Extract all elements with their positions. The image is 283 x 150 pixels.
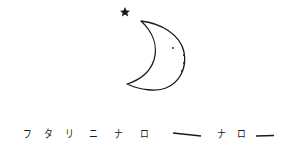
star-icon xyxy=(120,7,130,17)
caption-text: フ タ リ ニ ナ ロ ナ ロ xyxy=(0,128,283,144)
caption-char: ナ xyxy=(114,128,123,142)
caption-char: リ xyxy=(65,128,74,142)
caption-char: ロ xyxy=(140,128,149,142)
caption-char: ナ xyxy=(217,128,226,142)
caption-char: ニ xyxy=(89,128,98,142)
caption-char: ロ xyxy=(237,128,246,142)
caption-char: フ xyxy=(23,128,32,142)
caption-char: タ xyxy=(44,128,53,142)
crescent-moon-icon xyxy=(127,21,185,90)
